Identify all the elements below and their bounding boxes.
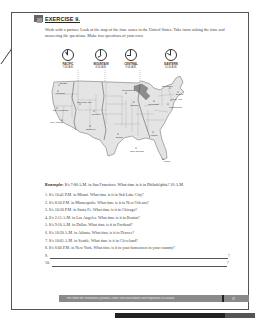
question-item: 8. It's 6:00 P.M. in New York. What time… <box>45 244 245 252</box>
svg-text:Miami: Miami <box>164 160 171 163</box>
svg-text:Seattle: Seattle <box>60 82 68 85</box>
exercise-marker-icon <box>34 15 43 22</box>
example-label: Example: <box>45 182 64 187</box>
clock-icon <box>125 49 137 61</box>
exercise-header: EXERCISE 9. <box>34 15 80 22</box>
question-item: 2. It's 8:50 P.M. in Minneapolis. What t… <box>45 199 245 207</box>
svg-text:Salt Lake City: Salt Lake City <box>77 101 93 104</box>
svg-text:Burlington: Burlington <box>162 85 173 88</box>
svg-text:Minneapolis: Minneapolis <box>122 89 136 92</box>
question-item: 4. It's 2:15 A.M. in Los Angeles. What t… <box>45 214 245 222</box>
blank-question-9: 9. ? <box>45 252 245 260</box>
clock-mountain: MOUNTAIN 8:00 A.M. <box>88 49 114 69</box>
clock-icon <box>95 49 107 61</box>
page-number: 37 <box>232 297 235 301</box>
svg-text:Atlanta: Atlanta <box>150 134 158 137</box>
svg-text:New York: New York <box>172 98 183 101</box>
exercise-title: EXERCISE 9. <box>45 16 80 22</box>
svg-text:Cleveland: Cleveland <box>148 103 159 106</box>
next-page-edge-shade <box>225 313 255 318</box>
question-item: 7. It's 10:05 A.M. in Seattle. What time… <box>45 237 245 245</box>
answer-line[interactable] <box>50 254 228 259</box>
clock-icon <box>62 49 74 61</box>
svg-text:Portland: Portland <box>56 92 66 95</box>
footer-divider <box>222 295 224 302</box>
svg-text:Philadelphia: Philadelphia <box>169 106 183 109</box>
question-item: 5. It's 9:10 A.M. in Dallas. What time i… <box>45 221 245 229</box>
svg-text:New Orleans: New Orleans <box>130 150 145 153</box>
example-text: It's 7:00 A.M. in San Francisco. What ti… <box>65 182 184 187</box>
answer-line[interactable] <box>52 262 227 267</box>
question-item: 3. It's 10:30 P.M. in Santa Fe. What tim… <box>45 206 245 214</box>
svg-text:Dallas: Dallas <box>116 136 123 139</box>
footer-chapter-title: THE VERB BE: Information Questions, It w… <box>66 297 216 300</box>
page-footer: THE VERB BE: Information Questions, It w… <box>59 295 249 302</box>
question-item: 1. It's 10:45 P.M. in Miami. What time i… <box>45 191 245 199</box>
blank-question-10: 10. ? <box>45 259 245 267</box>
svg-text:Denver: Denver <box>92 113 100 116</box>
example-line: Example: It's 7:00 A.M. in San Francisco… <box>45 182 245 187</box>
svg-text:San Francisco: San Francisco <box>53 109 69 112</box>
svg-text:Boston: Boston <box>176 93 184 96</box>
clock-central: CENTRAL 9:00 A.M. <box>118 49 144 69</box>
question-item: 6. It's 10:20 A.M. in Atlanta. What time… <box>45 229 245 237</box>
clock-icon <box>165 49 177 61</box>
svg-text:Santa Fe: Santa Fe <box>86 128 96 131</box>
clock-pacific: PACIFIC 7:00 A.M. <box>55 49 81 69</box>
clock-eastern: EASTERN 10:00 A.M. <box>158 49 184 69</box>
question-list: 1. It's 10:45 P.M. in Miami. What time i… <box>45 191 245 267</box>
svg-text:Chicago: Chicago <box>130 104 139 107</box>
us-time-zone-map: Seattle Portland San Francisco Los Angel… <box>50 70 190 170</box>
exercise-instructions: Work with a partner. Look at the map of … <box>45 27 235 39</box>
svg-text:Los Angeles: Los Angeles <box>50 121 64 124</box>
